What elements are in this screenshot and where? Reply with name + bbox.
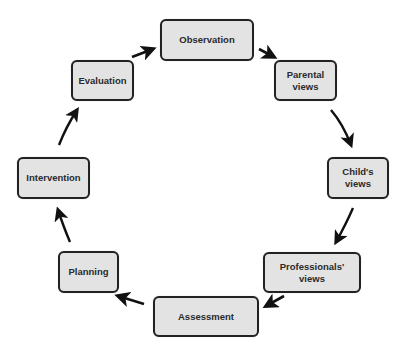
node-label: Evaluation: [78, 75, 126, 87]
node-planning: Planning: [58, 251, 119, 293]
cycle-diagram: Observation Parental views Child's views…: [0, 0, 402, 349]
node-professionals-views: Professionals' views: [263, 252, 361, 293]
node-observation: Observation: [160, 19, 254, 61]
node-evaluation: Evaluation: [71, 60, 134, 101]
node-label: Parental views: [287, 69, 325, 93]
node-label: Assessment: [178, 311, 234, 323]
arrow-childs-to-professionals: [336, 208, 353, 242]
arrow-professionals-to-assessment: [266, 296, 284, 306]
node-label: Observation: [179, 34, 234, 46]
node-intervention: Intervention: [17, 157, 90, 199]
arrow-intervention-to-evaluation: [59, 110, 77, 145]
arrow-evaluation-to-observation: [132, 49, 153, 57]
arrow-observation-to-parental: [259, 49, 274, 57]
node-childs-views: Child's views: [327, 157, 389, 199]
node-label: Child's views: [342, 166, 373, 190]
node-label: Planning: [68, 266, 108, 278]
node-label: Intervention: [26, 172, 80, 184]
arrow-assessment-to-planning: [118, 296, 144, 304]
node-assessment: Assessment: [153, 296, 259, 337]
node-parental-views: Parental views: [274, 60, 337, 101]
arrow-planning-to-intervention: [58, 210, 70, 242]
arrow-parental-to-childs: [331, 110, 351, 145]
node-label: Professionals' views: [280, 261, 345, 285]
